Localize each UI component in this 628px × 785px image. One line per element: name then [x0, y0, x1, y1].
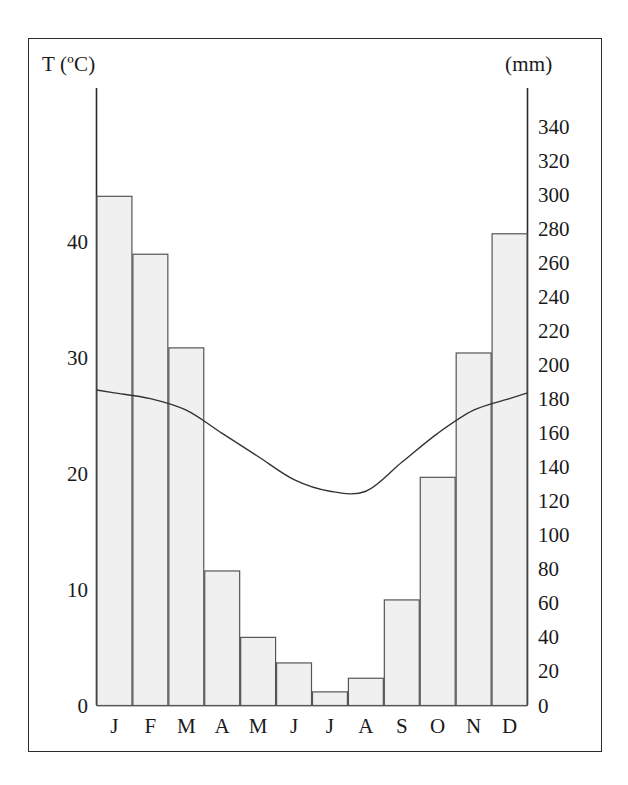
left-tick-label: 10 [67, 579, 88, 600]
month-label: N [466, 716, 481, 737]
right-tick-label: 220 [538, 320, 570, 341]
right-tick-label: 60 [538, 593, 559, 614]
precipitation-axis-title: (mm) [505, 52, 552, 77]
right-tick-label: 200 [538, 354, 570, 375]
month-label: J [326, 716, 334, 737]
right-tick-label: 80 [538, 559, 559, 580]
month-label: J [110, 716, 118, 737]
left-tick-label: 20 [67, 463, 88, 484]
right-tick-label: 260 [538, 252, 570, 273]
left-tick-label: 0 [78, 695, 89, 716]
right-tick-label: 180 [538, 388, 570, 409]
month-label: J [290, 716, 298, 737]
right-tick-label: 320 [538, 150, 570, 171]
right-tick-label: 160 [538, 423, 570, 444]
month-label: O [430, 716, 445, 737]
month-label: A [358, 716, 373, 737]
month-label: S [396, 716, 408, 737]
month-label: M [177, 716, 196, 737]
month-label: F [145, 716, 157, 737]
right-tick-label: 0 [538, 695, 549, 716]
month-label: A [215, 716, 230, 737]
right-tick-label: 140 [538, 457, 570, 478]
left-tick-label: 30 [67, 348, 88, 369]
left-tick-label: 40 [67, 232, 88, 253]
right-tick-label: 300 [538, 184, 570, 205]
month-label: D [502, 716, 517, 737]
climograph-figure: T (ºC) (mm) 403020100 340320300280260240… [0, 0, 628, 785]
temperature-axis-title: T (ºC) [42, 52, 95, 77]
right-tick-label: 20 [538, 661, 559, 682]
right-tick-label: 40 [538, 627, 559, 648]
right-tick-label: 280 [538, 218, 570, 239]
chart-frame-border [28, 38, 602, 752]
right-tick-label: 100 [538, 525, 570, 546]
right-tick-label: 120 [538, 491, 570, 512]
month-label: M [249, 716, 268, 737]
right-tick-label: 340 [538, 116, 570, 137]
right-tick-label: 240 [538, 286, 570, 307]
